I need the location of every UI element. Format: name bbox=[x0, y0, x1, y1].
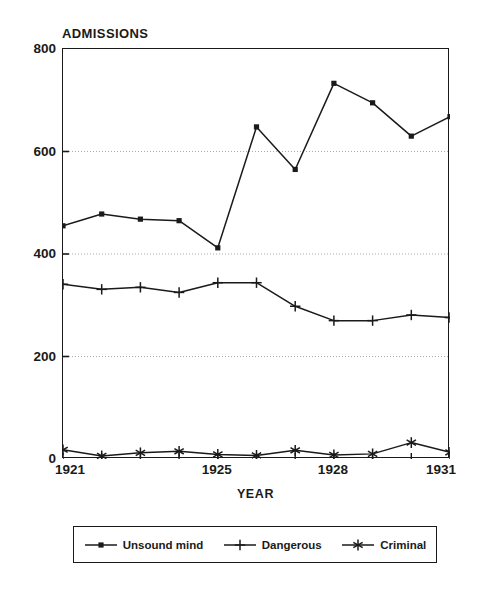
legend-marker bbox=[98, 542, 103, 547]
legend-entry-criminal: Criminal bbox=[341, 538, 426, 552]
data-point bbox=[370, 100, 375, 105]
data-point bbox=[215, 245, 220, 250]
chart-plot-svg bbox=[63, 49, 450, 459]
series-dangerous bbox=[63, 278, 450, 326]
x-axis-title: YEAR bbox=[62, 487, 449, 501]
data-point bbox=[331, 81, 336, 86]
y-tick-label-400: 400 bbox=[4, 246, 56, 261]
series-line bbox=[63, 283, 450, 321]
y-axis-tick-labels: 0200400600800 bbox=[0, 48, 56, 458]
y-tick-label-200: 200 bbox=[4, 348, 56, 363]
legend-label: Unsound mind bbox=[123, 539, 204, 551]
data-point bbox=[63, 223, 66, 228]
legend-marker-asterisk-icon bbox=[341, 538, 375, 552]
x-tick-label-1925: 1925 bbox=[202, 462, 232, 477]
data-point bbox=[177, 218, 182, 223]
legend-marker-filled-square-icon bbox=[84, 538, 118, 552]
legend-marker-plus-icon bbox=[223, 538, 257, 552]
legend-entry-dangerous: Dangerous bbox=[223, 538, 322, 552]
legend-label: Dangerous bbox=[262, 539, 322, 551]
data-point bbox=[254, 124, 259, 129]
legend-entry-unsound-mind: Unsound mind bbox=[84, 538, 204, 552]
y-tick-label-0: 0 bbox=[4, 451, 56, 466]
legend-label: Criminal bbox=[380, 539, 426, 551]
y-tick-label-600: 600 bbox=[4, 143, 56, 158]
series-criminal bbox=[63, 437, 450, 459]
data-point bbox=[99, 211, 104, 216]
x-tick-label-1921: 1921 bbox=[55, 462, 85, 477]
x-axis-tick-labels: 1921192519281931 bbox=[62, 462, 449, 482]
x-tick-label-1928: 1928 bbox=[318, 462, 348, 477]
plot-area bbox=[62, 48, 449, 458]
series-unsound-mind bbox=[63, 81, 450, 251]
data-point bbox=[409, 134, 414, 139]
chart-figure: ADMISSIONS 0200400600800 192119251928193… bbox=[0, 0, 495, 590]
series-line bbox=[63, 83, 450, 248]
data-point bbox=[138, 217, 143, 222]
data-point bbox=[293, 167, 298, 172]
chart-legend: Unsound mindDangerousCriminal bbox=[73, 526, 437, 563]
chart-title: ADMISSIONS bbox=[62, 26, 148, 41]
y-tick-label-800: 800 bbox=[4, 41, 56, 56]
data-point bbox=[447, 114, 450, 119]
x-tick-label-1931: 1931 bbox=[426, 462, 456, 477]
